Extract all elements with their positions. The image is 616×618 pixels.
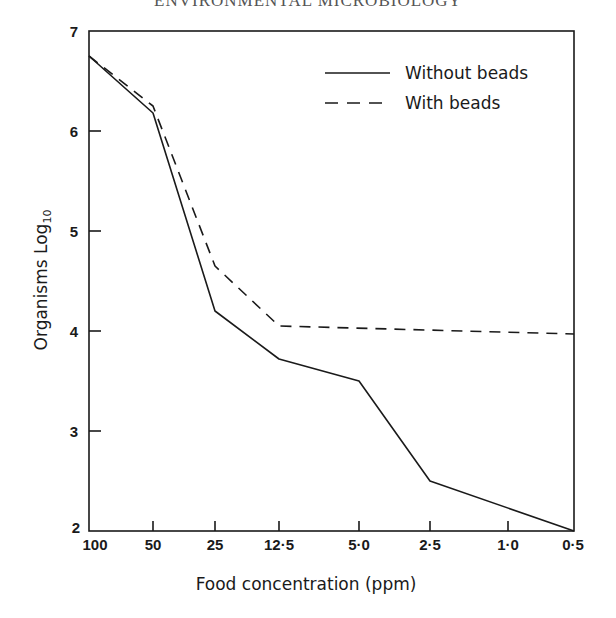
legend: Without beads With beads [325,63,528,113]
series-group [89,56,574,531]
x-tick-label: 100 [82,536,107,553]
y-tick-label: 3 [70,423,78,440]
legend-label-with-beads: With beads [405,93,500,113]
plot-frame [89,31,574,531]
chart: 234567100502512·55·02·51·00·5 Without be… [0,0,616,618]
series-with-beads [89,56,574,334]
x-tick-label: 50 [145,536,162,553]
y-axis-title: Organisms Log10 [31,210,54,351]
x-tick-label: 1·0 [497,536,519,553]
x-tick-label: 25 [207,536,224,553]
y-tick-label: 2 [72,519,80,536]
x-tick-label: 0·5 [562,536,584,553]
x-tick-label: 2·5 [419,536,441,553]
legend-label-without-beads: Without beads [405,63,528,83]
y-tick-label: 6 [70,123,78,140]
y-tick-label: 4 [70,323,79,340]
x-tick-label: 12·5 [264,536,294,553]
y-tick-label: 7 [70,23,78,40]
x-axis-title: Food concentration (ppm) [196,574,417,594]
y-tick-label: 5 [70,223,78,240]
x-tick-label: 5·0 [348,536,370,553]
